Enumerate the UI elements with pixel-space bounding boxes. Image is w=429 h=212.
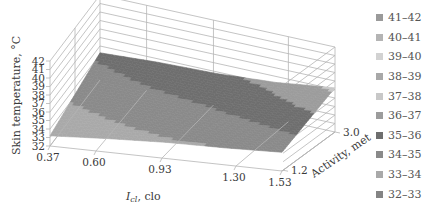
y-tick-label: 1.2 [291, 164, 308, 176]
x-tick-label: 0.60 [82, 156, 105, 168]
x-axis-label: Icl, clo [125, 190, 161, 204]
legend-label: 38–39 [388, 70, 422, 83]
x-tick-label: 1.53 [268, 176, 291, 188]
chart-legend: 41–4240–4139–4038–3937–3836–3735–3634–35… [376, 8, 422, 204]
y-axis-label: Activity, met [308, 131, 374, 181]
legend-item: 32–33 [376, 184, 422, 204]
legend-item: 33–34 [376, 165, 422, 185]
legend-label: 32–33 [388, 188, 422, 201]
legend-item: 34–35 [376, 145, 422, 165]
legend-item: 41–42 [376, 8, 422, 28]
legend-item: 40–41 [376, 28, 422, 48]
z-tick-label: 42 [32, 55, 45, 67]
legend-item: 39–40 [376, 47, 422, 67]
legend-label: 40–41 [388, 31, 422, 44]
legend-label: 34–35 [388, 148, 422, 161]
surface-chart: 3233343536373839404142 0.370.600.931.301… [0, 0, 429, 212]
legend-item: 36–37 [376, 106, 422, 126]
legend-item: 35–36 [376, 126, 422, 146]
z-axis-label: Skin temperature, °C [10, 36, 23, 155]
chart-surface [50, 53, 335, 153]
legend-swatch [376, 171, 383, 178]
x-tick-label: 0.93 [148, 163, 171, 175]
legend-swatch [376, 112, 383, 119]
legend-item: 37–38 [376, 86, 422, 106]
legend-swatch [376, 73, 383, 80]
x-tick-label: 0.37 [36, 151, 59, 163]
legend-label: 39–40 [388, 50, 422, 63]
legend-swatch [376, 34, 383, 41]
legend-swatch [376, 14, 383, 21]
legend-swatch [376, 191, 383, 198]
z-axis-ticks: 3233343536373839404142 [32, 55, 50, 152]
x-tick-label: 1.30 [222, 171, 245, 183]
legend-label: 37–38 [388, 90, 422, 103]
legend-item: 38–39 [376, 67, 422, 87]
legend-label: 35–36 [388, 129, 422, 142]
legend-swatch [376, 151, 383, 158]
legend-swatch [376, 93, 383, 100]
legend-swatch [376, 132, 383, 139]
legend-swatch [376, 53, 383, 60]
legend-label: 33–34 [388, 168, 422, 181]
legend-label: 36–37 [388, 109, 422, 122]
legend-label: 41–42 [388, 11, 422, 24]
